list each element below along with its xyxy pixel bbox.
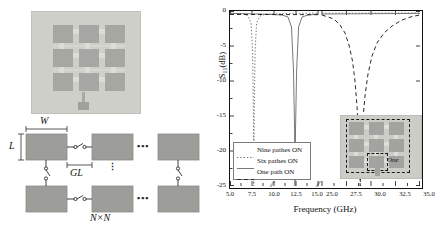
x-tick-10: 10.0 — [263, 190, 285, 197]
y-tick-m5: -5 — [205, 41, 226, 49]
y-tick-m20: -20 — [205, 146, 226, 154]
legend-swatch-dotted — [237, 147, 254, 154]
legend-item-one: One path ON — [237, 167, 308, 178]
x-tick-30: 30.0 — [369, 190, 391, 197]
x-tick-7p5: 7.5 — [241, 190, 263, 197]
plot-area: Nine pathes ON Six pathes ON One path ON — [229, 10, 423, 189]
x-axis-break-left: ⁄⁄ — [271, 180, 274, 189]
array-schematic: W L GL N×N ••• ••• ⋮ — [8, 118, 205, 223]
legend-label-nine: Nine pathes ON — [257, 146, 302, 155]
x-axis-break-right: ⁄⁄ — [317, 180, 320, 189]
schematic-svg — [8, 118, 205, 223]
legend-item-six: Six pathes ON — [237, 156, 308, 167]
legend-item-nine: Nine pathes ON — [237, 145, 308, 156]
y-tick-0: 0 — [205, 6, 226, 14]
y-tick-m10: -10 — [205, 76, 226, 84]
schematic-label-width: W — [40, 115, 48, 126]
legend-label-six: Six pathes ON — [257, 157, 298, 166]
schematic-label-length: L — [9, 140, 15, 151]
x-axis-label: Frequency (GHz) — [229, 204, 421, 214]
inset-one-label: One — [387, 156, 399, 164]
schematic-vertical-ellipsis: ⋮ — [108, 166, 116, 169]
x-tick-35: 35.0 — [418, 190, 440, 197]
chart-inset-photo: One — [340, 115, 422, 179]
legend-swatch-dashed — [237, 169, 254, 176]
schematic-ellipsis-row2: ••• — [137, 193, 149, 203]
x-tick-5: 5.0 — [219, 190, 241, 197]
schematic-ellipsis-row1: ••• — [137, 141, 149, 151]
chart-legend: Nine pathes ON Six pathes ON One path ON — [233, 142, 311, 180]
x-tick-25: 25.0 — [321, 190, 343, 197]
photo-feed-pad — [78, 102, 89, 110]
inset-feedline — [375, 168, 380, 176]
x-tick-27p5: 27.5 — [345, 190, 367, 197]
series-six-paths-on-seg2 — [322, 13, 420, 14]
photo-patch-grid — [53, 25, 125, 92]
schematic-label-gap: GL — [70, 167, 83, 178]
y-tick-m25: -25 — [205, 181, 226, 189]
schematic-label-array-size: N×N — [90, 212, 110, 223]
legend-swatch-solid — [237, 158, 254, 165]
left-panel: W L GL N×N ••• ••• ⋮ — [0, 0, 205, 227]
figure-root: W L GL N×N ••• ••• ⋮ S₁₁(dB) 0 -5 -10 -1… — [0, 0, 444, 227]
y-tick-m15: -15 — [205, 111, 226, 119]
s11-chart: S₁₁(dB) 0 -5 -10 -15 -20 -25 — [205, 0, 444, 227]
x-tick-32p5: 32.5 — [394, 190, 416, 197]
legend-label-one: One path ON — [257, 168, 294, 177]
x-tick-12p5: 12.5 — [285, 190, 307, 197]
fabricated-array-photo — [31, 11, 141, 114]
